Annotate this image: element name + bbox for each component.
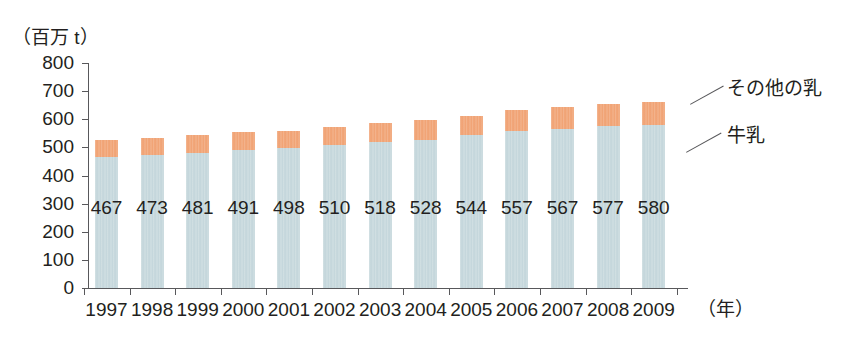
x-axis-tick [130,288,131,295]
bar-segment-cow-milk-1999 [186,153,209,288]
bar-segment-other-milk-2005 [460,116,483,135]
bar-segment-other-milk-1997 [95,140,118,157]
bar-segment-other-milk-2009 [642,102,665,125]
x-axis-title: （年） [697,299,754,321]
bar-segment-other-milk-1998 [141,138,164,155]
legend-label-cow-milk: 牛乳 [727,126,765,146]
bar-segment-cow-milk-2000 [232,150,255,288]
y-axis-tick-label: 400 [12,166,74,185]
x-axis-tick [312,288,313,295]
bar-segment-cow-milk-1997 [95,157,118,288]
y-axis-tick-label: 600 [12,109,74,128]
bar-segment-other-milk-2003 [369,123,392,142]
plot-area: 467473481491498510518528544557567577580 [88,63,680,288]
bar-segment-other-milk-2006 [505,110,528,131]
x-axis-tick-label-2009: 2009 [624,299,684,321]
x-axis-tick [221,288,222,295]
bar-segment-other-milk-2004 [414,120,437,139]
x-axis-tick [631,288,632,295]
bar-segment-other-milk-2002 [323,127,346,144]
x-axis-tick [358,288,359,295]
x-axis-line [88,288,688,289]
legend-leader-line-cow-milk [686,133,721,153]
bar-segment-other-milk-2008 [597,104,620,125]
x-axis-tick [586,288,587,295]
x-axis-tick [540,288,541,295]
x-axis-tick [449,288,450,295]
bar-segment-other-milk-2000 [232,132,255,150]
legend-leader-line-other-milk [690,86,724,105]
x-axis-tick [175,288,176,295]
y-axis-tick-label: 800 [12,53,74,72]
x-axis-tick [266,288,267,295]
y-axis-tick-label: 200 [12,222,74,241]
bar-segment-cow-milk-1998 [141,155,164,288]
y-axis-tick-label: 300 [12,194,74,213]
x-axis-tick [84,288,85,295]
chart-canvas: （百万 t） 8007006005004003002001000 1997199… [0,0,851,340]
y-axis-tick-label: 500 [12,137,74,156]
y-axis-tick-label: 700 [12,81,74,100]
bar-segment-other-milk-1999 [186,135,209,153]
x-axis-tick [494,288,495,295]
bar-segment-other-milk-2001 [277,131,300,148]
y-axis-tick-label: 0 [12,278,74,297]
x-axis-tick [677,288,678,295]
legend-label-other-milk: その他の乳 [727,79,822,99]
y-axis-unit-label: （百万 t） [12,22,99,49]
bar-value-label-2009: 580 [625,198,682,217]
y-axis-tick-label: 100 [12,250,74,269]
x-axis-tick [403,288,404,295]
bar-segment-other-milk-2007 [551,107,574,128]
